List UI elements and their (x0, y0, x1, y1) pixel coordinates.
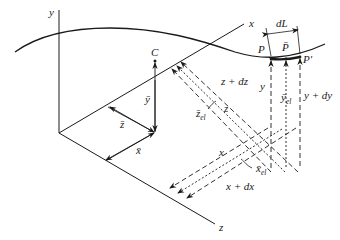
z-el-leader (208, 101, 216, 109)
point-p (270, 58, 273, 61)
z-el-label: z̄el (195, 107, 206, 122)
centroid-c-label: C (151, 46, 159, 58)
z-bar-dimension-back (110, 107, 150, 130)
x-plus-dx-label: x + dx (225, 180, 254, 192)
x-el-leader (241, 159, 252, 168)
x-el-label: x̄el (255, 162, 266, 177)
y-plus-dy-label: y + dy (303, 89, 332, 101)
z-bar-label: z̄ (119, 118, 125, 130)
point-p-label: P (257, 43, 265, 55)
z-axis-label: z (218, 221, 224, 233)
diagram-figure: y x z dL P P̄ P' C ȳ z̄ x̄ y ȳel y + dy (0, 0, 340, 240)
x-axis-label: x (248, 17, 254, 29)
x-bar-dimension-back (106, 134, 152, 160)
y-el-label: ȳel (280, 91, 291, 106)
y-label: y (259, 80, 265, 92)
point-p-prime-label: P' (302, 53, 313, 65)
axes (59, 10, 244, 224)
x-projection (170, 128, 268, 188)
z-label: z (223, 102, 229, 114)
point-p-bar (285, 58, 288, 61)
x-bar-label: x̄ (135, 144, 141, 156)
point-p-bar-label: P̄ (281, 41, 289, 53)
y-bar-label: ȳ (144, 93, 151, 105)
z-plus-dz-label: z + dz (220, 75, 249, 87)
centroid-c (154, 60, 157, 63)
x-label: x (218, 146, 224, 158)
point-p-prime (299, 56, 302, 59)
dL-label: dL (276, 17, 288, 29)
y-axis-label: y (48, 6, 54, 18)
x-axis (59, 24, 244, 133)
